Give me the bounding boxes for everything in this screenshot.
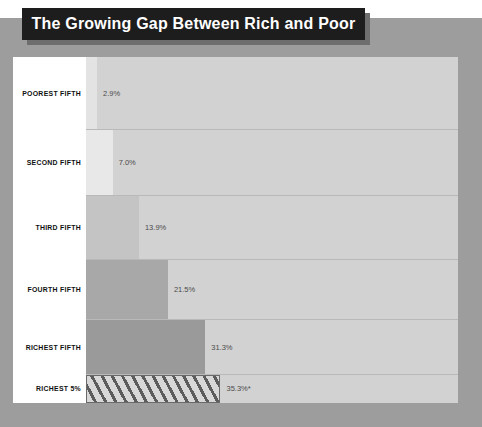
bar-value-label: 13.9% [145, 223, 166, 232]
bar-richest-fifth [86, 320, 205, 374]
category-label-2: THIRD FIFTH [18, 223, 81, 232]
bar-second-fifth [86, 130, 113, 195]
category-label-3: FOURTH FIFTH [18, 285, 81, 294]
bar-richest-5 [86, 375, 220, 403]
bar-value-label: 35.3%* [226, 384, 250, 393]
category-label-0: POOREST FIFTH [18, 89, 81, 98]
bar-value-label: 7.0% [119, 158, 136, 167]
category-labels: POOREST FIFTHSECOND FIFTHTHIRD FIFTHFOUR… [13, 57, 86, 403]
page-title: The Growing Gap Between Rich and Poor [32, 15, 356, 33]
bar-value-label: 21.5% [174, 285, 195, 294]
category-label-5: RICHEST 5% [18, 384, 81, 393]
category-label-1: SECOND FIFTH [18, 158, 81, 167]
chart-screenshot: The Growing Gap Between Rich and Poor 2.… [0, 0, 482, 427]
category-label-4: RICHEST FIFTH [18, 343, 81, 352]
bar-poorest-fifth [86, 57, 97, 129]
bar-value-label: 2.9% [103, 89, 120, 98]
bar-value-label: 31.3% [211, 343, 232, 352]
bar-fourth-fifth [86, 260, 168, 319]
title-banner: The Growing Gap Between Rich and Poor [22, 8, 365, 40]
bar-third-fifth [86, 196, 139, 259]
